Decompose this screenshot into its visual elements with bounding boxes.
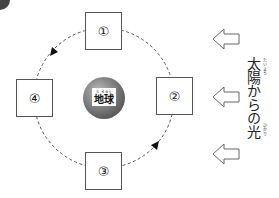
sunlight-label: 太陽からの光 [245,57,261,138]
position-number-3: ③ [98,165,110,178]
sunlight-arrow-left-icon [212,143,240,165]
earth-label: 地球 [94,94,114,105]
position-number-4: ④ [29,92,41,105]
sunlight-ruby-taiyou: たいよう [262,58,267,75]
sunlight-arrow-left-icon [212,28,240,50]
earth-label-box: ち きゅう 地球 [92,88,116,106]
orbit-arrowhead-upper-left [50,47,58,56]
position-box-1[interactable]: ① [85,12,122,50]
position-box-4[interactable]: ④ [16,79,53,117]
position-number-2: ② [169,90,181,103]
sunlight-ruby-hikari: ひかり [262,123,267,136]
position-box-3[interactable]: ③ [85,152,122,190]
position-box-2[interactable]: ② [156,77,193,115]
sunlight-arrow-left-icon [212,86,240,108]
position-number-1: ① [98,25,110,38]
